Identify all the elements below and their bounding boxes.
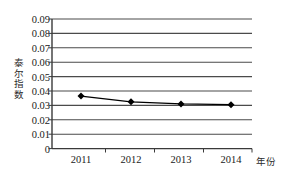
- x-tick-label: 2012: [121, 154, 142, 165]
- x-tick-label: 2014: [221, 154, 242, 165]
- theil-index-line-chart: 泰 尔 指 数 0.09 0.08 0.07 0.06 0.05 0.04 0.…: [0, 0, 286, 178]
- x-tick-label: 2013: [171, 154, 192, 165]
- plot-area: [0, 0, 286, 178]
- x-tick-label: 2011: [71, 154, 92, 165]
- data-point-marker: [78, 93, 85, 100]
- x-axis-title: 年份: [256, 154, 276, 168]
- gridlines: [52, 19, 252, 134]
- data-point-marker: [128, 98, 135, 105]
- data-point-marker: [178, 100, 185, 107]
- data-point-marker: [228, 101, 235, 108]
